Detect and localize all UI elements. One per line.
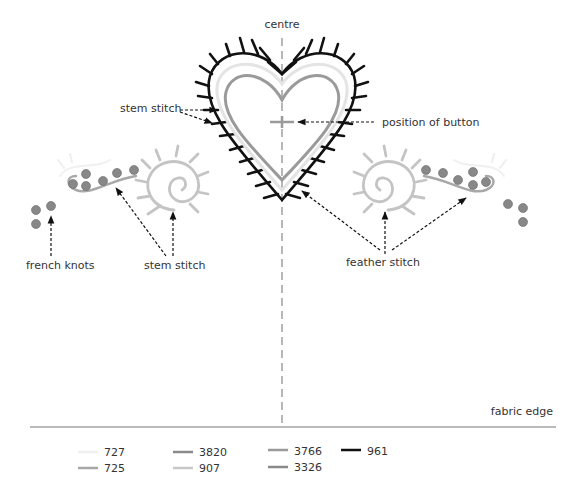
legend-907: 907 — [199, 462, 220, 475]
embroidery-pattern-diagram: centre — [0, 0, 564, 499]
legend-725: 725 — [104, 462, 125, 475]
position-of-button-label: position of button — [382, 116, 479, 129]
legend-727: 727 — [104, 446, 125, 459]
legend-3326: 3326 — [294, 461, 322, 474]
fabric-edge-label: fabric edge — [491, 405, 553, 418]
left-spiral-feather — [136, 146, 208, 214]
stem-stitch-left-label: stem stitch — [144, 259, 205, 272]
button-position-mark — [270, 116, 294, 128]
right-spiral-feather — [354, 146, 426, 214]
thread-legend: 727 725 3820 907 3766 3326 961 — [78, 445, 388, 475]
stem-stitch-heart-label: stem stitch — [120, 102, 181, 115]
right-curl — [424, 154, 506, 191]
legend-3820: 3820 — [199, 446, 227, 459]
french-knots-label: french knots — [26, 259, 95, 272]
legend-3766: 3766 — [294, 445, 322, 458]
legend-961: 961 — [367, 445, 388, 458]
feather-stitch-label: feather stitch — [346, 256, 420, 269]
centre-label: centre — [264, 18, 299, 31]
